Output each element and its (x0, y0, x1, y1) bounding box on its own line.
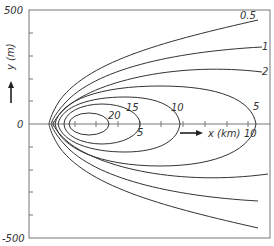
label-2: 2 (262, 66, 268, 77)
x-arrow-icon (180, 130, 203, 136)
y-tick-500: 500 (4, 5, 23, 16)
label-20: 20 (108, 110, 121, 121)
label-15: 15 (126, 102, 139, 113)
y-axis-title: y (m) (5, 43, 16, 71)
contour-5 (55, 86, 256, 166)
y-tick-0: 0 (17, 119, 23, 130)
x-tick-5: 5 (137, 127, 143, 138)
contour-chart: 500 0 -500 y (m) x (km) 5 10 0.5 1 2 5 1… (0, 0, 274, 246)
label-5: 5 (253, 101, 259, 112)
y-tick-minus-500: -500 (2, 233, 25, 244)
label-1: 1 (262, 41, 268, 52)
label-0.5: 0.5 (240, 10, 256, 21)
x-axis-title: x (km) (207, 128, 240, 139)
label-10: 10 (171, 102, 184, 113)
y-arrow-icon (8, 81, 14, 103)
